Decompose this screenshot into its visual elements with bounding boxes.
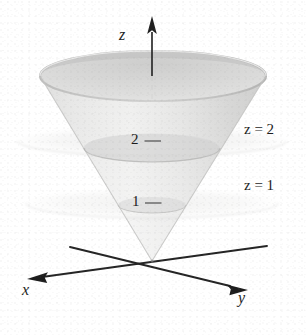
plane-label-z-1: z = 1 — [244, 178, 274, 193]
x-axis-label: x — [22, 282, 29, 298]
cone-plane-z2-intersection — [84, 134, 220, 162]
figure-container: z x y 2 1 z = 2 z = 1 — [0, 0, 307, 336]
z-tick-label-2: 2 — [131, 132, 139, 147]
cone-apex — [150, 259, 153, 262]
z-tick-label-1: 1 — [132, 194, 140, 209]
z-axis-label: z — [119, 27, 125, 43]
cone-figure-svg — [0, 0, 307, 336]
cone-plane-z1-intersection — [118, 197, 186, 213]
y-axis — [70, 247, 248, 295]
y-axis-label: y — [238, 290, 245, 306]
plane-label-z-2: z = 2 — [244, 122, 274, 137]
z-axis-arrowhead — [147, 16, 157, 34]
